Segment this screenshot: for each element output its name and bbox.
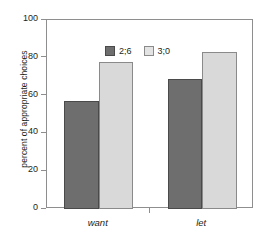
legend-swatch-icon-series-1 — [144, 46, 154, 56]
y-axis-tick-label: 100 — [8, 14, 38, 23]
y-axis-tick-label: 80 — [8, 52, 38, 61]
legend: 2;6 3;0 — [105, 46, 170, 56]
legend-entry-series-1: 3;0 — [144, 46, 171, 56]
y-axis-tick-label: 40 — [8, 127, 38, 136]
bar — [202, 52, 237, 209]
x-axis-category-label: want — [58, 217, 138, 228]
bar — [168, 79, 203, 209]
plot-area: 2;6 3;0 — [46, 19, 253, 208]
x-axis-category-label: let — [161, 217, 241, 228]
x-axis-tick — [149, 208, 150, 213]
y-axis-tick-label: 0 — [8, 203, 38, 212]
bar — [64, 101, 99, 209]
legend-label-series-1: 3;0 — [158, 47, 171, 56]
y-axis-tick-label: 20 — [8, 165, 38, 174]
legend-entry-series-0: 2;6 — [105, 46, 132, 56]
legend-label-series-0: 2;6 — [119, 47, 132, 56]
y-axis-tick-label: 60 — [8, 90, 38, 99]
bar — [99, 62, 134, 209]
bar-chart-figure: percent of appropriate choices 020406080… — [0, 0, 267, 239]
legend-swatch-icon-series-0 — [105, 46, 115, 56]
